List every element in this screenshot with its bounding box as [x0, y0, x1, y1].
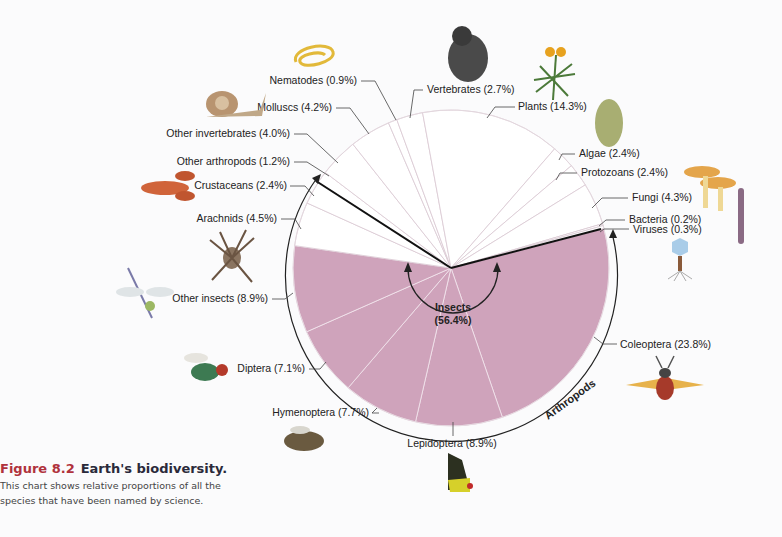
- biodiversity-pie-chart: Arthropods Insects (56.4%) Nematodes (0.…: [0, 0, 782, 537]
- label-protozoans: Protozoans (2.4%): [581, 166, 668, 178]
- nematode-icon: [295, 46, 333, 65]
- label-other-arthropods: Other arthropods (1.2%): [177, 155, 290, 167]
- label-diptera: Diptera (7.1%): [237, 362, 305, 374]
- chimpanzee-icon: [448, 26, 488, 82]
- label-crustaceans: Crustaceans (2.4%): [194, 179, 287, 191]
- label-nematodes: Nematodes (0.9%): [269, 74, 357, 86]
- arrowhead-icon: [609, 229, 617, 238]
- label-hymenoptera: Hymenoptera (7.7%): [272, 406, 369, 418]
- label-fungi: Fungi (4.3%): [632, 191, 692, 203]
- butterfly-icon: [448, 453, 473, 492]
- label-molluscs: Molluscs (4.2%): [257, 101, 332, 113]
- bee-icon: [284, 426, 324, 451]
- caption-body-line-2: species that have been named by science.: [0, 493, 300, 508]
- spider-icon: [210, 230, 254, 282]
- caption-body-line-1: This chart shows relative proportions of…: [0, 478, 300, 493]
- beetle-icon: [626, 356, 704, 400]
- plant-flower-icon: [534, 47, 575, 100]
- label-other-insects: Other insects (8.9%): [172, 292, 268, 304]
- dragonfly-icon: [116, 268, 174, 318]
- label-plants: Plants (14.3%): [518, 100, 587, 112]
- label-bacteria: Bacteria (0.2%): [629, 213, 701, 225]
- center-label-name: Insects: [435, 301, 471, 313]
- lobster-icon: [141, 171, 195, 201]
- bacteria-icon: [738, 188, 744, 244]
- center-label-value: (56.4%): [435, 314, 472, 326]
- label-arachnids: Arachnids (4.5%): [196, 212, 277, 224]
- label-coleoptera: Coleoptera (23.8%): [620, 338, 711, 350]
- caption-heading: Earth's biodiversity.: [81, 461, 228, 476]
- caption-figure-number: Figure 8.2: [0, 461, 75, 476]
- label-vertebrates: Vertebrates (2.7%): [427, 83, 515, 95]
- label-algae: Algae (2.4%): [579, 147, 640, 159]
- mushroom-icon: [684, 166, 736, 211]
- fly-icon: [184, 353, 228, 381]
- virus-icon: [668, 238, 692, 281]
- label-other-invertebrates: Other invertebrates (4.0%): [166, 127, 290, 139]
- algae-icon: [595, 99, 623, 147]
- caption-title: Figure 8.2Earth's biodiversity.: [0, 461, 300, 476]
- label-lepidoptera: Lepidoptera (8.9%): [407, 437, 496, 449]
- figure-caption: Figure 8.2Earth's biodiversity. This cha…: [0, 461, 300, 508]
- caption-body: This chart shows relative proportions of…: [0, 478, 300, 508]
